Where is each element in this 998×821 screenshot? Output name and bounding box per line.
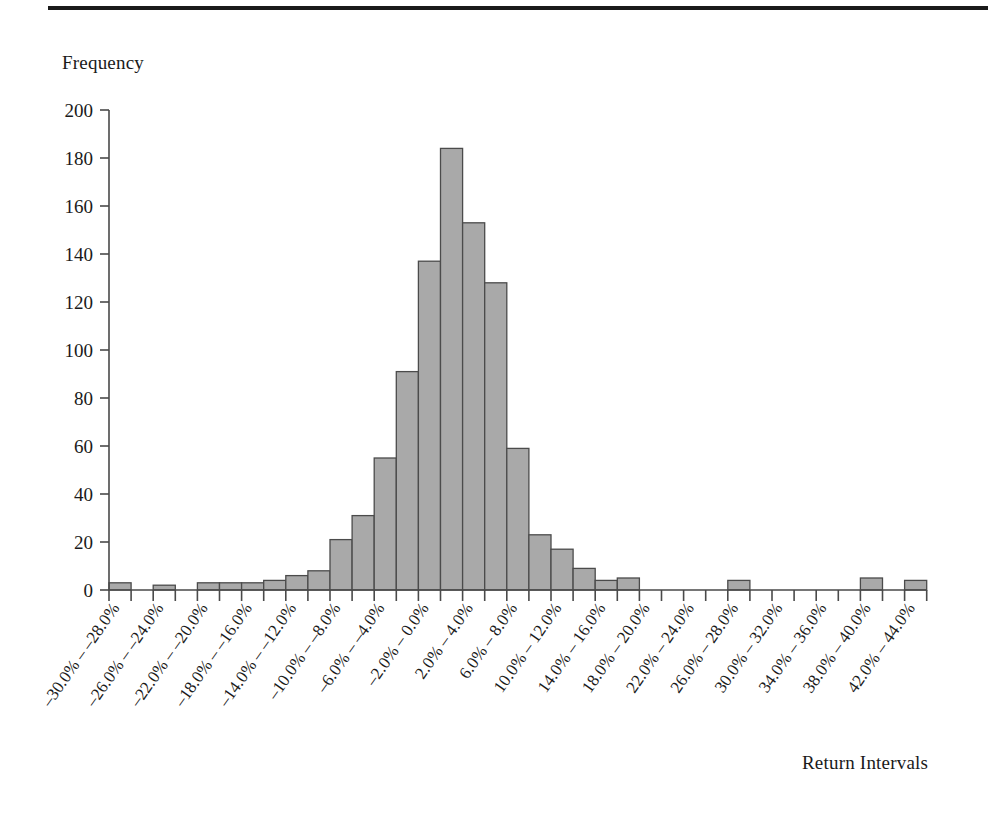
histogram-bar bbox=[860, 578, 882, 590]
histogram-bar bbox=[463, 223, 485, 590]
y-tick-label: 160 bbox=[65, 196, 94, 217]
histogram-bar bbox=[396, 372, 418, 590]
histogram-plot: 020406080100120140160180200 –30.0% – –28… bbox=[0, 0, 998, 821]
histogram-bar bbox=[374, 458, 396, 590]
y-tick-label: 200 bbox=[65, 100, 94, 121]
y-tick-label: 140 bbox=[65, 244, 94, 265]
histogram-bar bbox=[529, 535, 551, 590]
histogram-bar bbox=[418, 261, 440, 590]
histogram-bar bbox=[485, 283, 507, 590]
x-axis-labels-group: –30.0% – –28.0%–26.0% – –24.0%–22.0% – –… bbox=[37, 599, 919, 711]
histogram-bar bbox=[308, 571, 330, 590]
histogram-bar bbox=[197, 583, 219, 590]
x-tick-label: –22.0% – –20.0% bbox=[126, 599, 212, 711]
histogram-bar bbox=[617, 578, 639, 590]
histogram-figure: Frequency Return Intervals 0204060801001… bbox=[0, 0, 998, 821]
histogram-bar bbox=[551, 549, 573, 590]
y-tick-label: 100 bbox=[65, 340, 94, 361]
x-tick-label: –30.0% – –28.0% bbox=[37, 599, 123, 711]
x-tick-label: –18.0% – –16.0% bbox=[170, 599, 256, 711]
y-tick-label: 180 bbox=[65, 148, 94, 169]
x-tick-label: –26.0% – –24.0% bbox=[82, 599, 168, 711]
y-tick-label: 40 bbox=[74, 484, 93, 505]
histogram-bar bbox=[507, 448, 529, 590]
y-tick-label: 0 bbox=[84, 580, 94, 601]
histogram-bar bbox=[905, 580, 927, 590]
x-axis-ticks-group bbox=[109, 590, 927, 601]
histogram-bar bbox=[286, 576, 308, 590]
histogram-bar bbox=[595, 580, 617, 590]
histogram-bar bbox=[220, 583, 242, 590]
histogram-bar bbox=[330, 540, 352, 590]
histogram-bar bbox=[441, 148, 463, 590]
y-tick-label: 60 bbox=[74, 436, 93, 457]
x-tick-label: –14.0% – –12.0% bbox=[214, 599, 300, 711]
y-tick-label: 20 bbox=[74, 532, 93, 553]
bars-group bbox=[109, 148, 927, 590]
y-tick-label: 80 bbox=[74, 388, 93, 409]
histogram-bar bbox=[109, 583, 131, 590]
histogram-bar bbox=[352, 516, 374, 590]
y-axis-ticks-group: 020406080100120140160180200 bbox=[65, 100, 110, 601]
histogram-bar bbox=[728, 580, 750, 590]
histogram-bar bbox=[264, 580, 286, 590]
histogram-bar bbox=[573, 568, 595, 590]
y-tick-label: 120 bbox=[65, 292, 94, 313]
histogram-bar bbox=[242, 583, 264, 590]
